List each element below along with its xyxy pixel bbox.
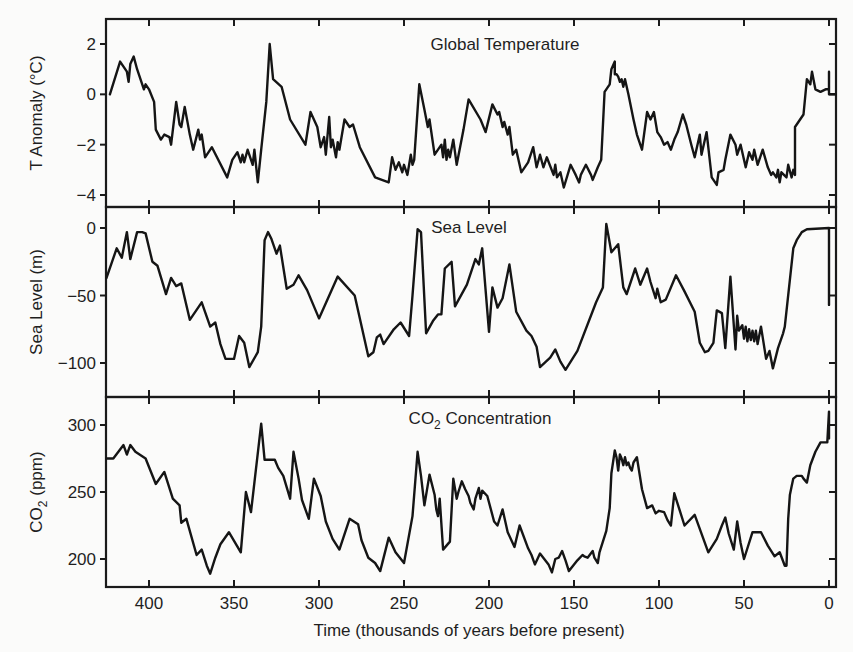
y-tick-label: 250 xyxy=(68,483,96,502)
panel-title-temperature: Global Temperature xyxy=(431,35,580,54)
y-tick-label: 0 xyxy=(87,219,96,238)
climate-chart: 20−2−4T Anomaly (°C)Global Temperature0−… xyxy=(0,0,853,652)
x-tick-label: 400 xyxy=(135,594,163,613)
x-tick-label: 200 xyxy=(475,594,503,613)
y-tick-label: 0 xyxy=(87,85,96,104)
x-tick-label: 350 xyxy=(220,594,248,613)
x-tick-label: 250 xyxy=(390,594,418,613)
series-line-temperature xyxy=(110,44,836,188)
panel-co2: 300250200CO2 (ppm)CO2 Concentration xyxy=(27,397,836,587)
panel-title-co2: CO2 Concentration xyxy=(409,409,552,432)
y-tick-label: −100 xyxy=(58,354,96,373)
y-tick-label: −2 xyxy=(77,136,96,155)
x-tick-label: 50 xyxy=(735,594,754,613)
y-tick-label: 200 xyxy=(68,550,96,569)
x-tick-label: 100 xyxy=(645,594,673,613)
y-tick-label: −50 xyxy=(67,287,96,306)
panel-sea-level: 0−50−100Sea Level (m)Sea Level xyxy=(27,207,836,397)
series-line-co2 xyxy=(107,412,830,574)
y-tick-label: 2 xyxy=(87,35,96,54)
x-tick-label: 150 xyxy=(560,594,588,613)
series-line-sea-level xyxy=(107,224,830,370)
x-tick-label: 300 xyxy=(305,594,333,613)
y-tick-label: −4 xyxy=(77,186,96,205)
y-axis-title-temperature: T Anomaly (°C) xyxy=(27,55,46,170)
chart-panels: 20−2−4T Anomaly (°C)Global Temperature0−… xyxy=(27,19,836,613)
panel-temperature: 20−2−4T Anomaly (°C)Global Temperature xyxy=(27,19,836,207)
panel-title-sea-level: Sea Level xyxy=(431,218,507,237)
y-tick-label: 300 xyxy=(68,416,96,435)
x-axis-title: Time (thousands of years before present) xyxy=(313,621,624,640)
y-axis-title-sea-level: Sea Level (m) xyxy=(27,249,46,355)
x-tick-label: 0 xyxy=(824,594,833,613)
y-axis-title-co2: CO2 (ppm) xyxy=(27,451,50,532)
